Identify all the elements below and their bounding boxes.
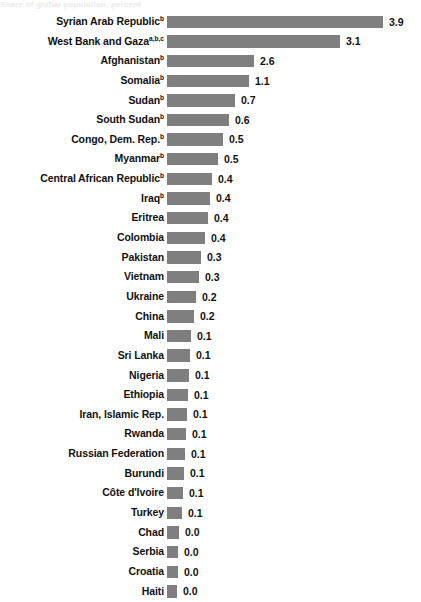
- footnote-marker: b: [160, 132, 164, 139]
- bar-and-value: 0.0: [167, 526, 200, 538]
- bar-row: Central African Republicb0.4: [0, 169, 421, 189]
- category-label: Sudanb: [128, 91, 164, 111]
- bar-chart: Share of global population, percent Syri…: [0, 0, 421, 602]
- value-label: 0.2: [200, 310, 215, 322]
- bar-row: Eritrea0.4: [0, 208, 421, 228]
- category-label: Colombia: [117, 228, 164, 248]
- bar-and-value: 3.9: [167, 16, 404, 28]
- value-label: 3.1: [346, 35, 361, 47]
- bar: [167, 251, 201, 263]
- category-label: Côte d'Ivoire: [102, 483, 164, 503]
- bar: [167, 55, 254, 67]
- bar: [167, 16, 383, 28]
- category-label: Sri Lanka: [118, 346, 164, 366]
- bar-row: Rwanda0.1: [0, 424, 421, 444]
- bar-and-value: 0.3: [167, 251, 222, 263]
- category-label: South Sudanb: [96, 110, 164, 130]
- value-label: 0.4: [216, 192, 231, 204]
- category-label: China: [135, 307, 164, 327]
- bar: [167, 487, 183, 499]
- value-label: 0.6: [235, 114, 250, 126]
- value-label: 0.1: [191, 448, 206, 460]
- bar: [167, 566, 178, 578]
- bar: [167, 467, 184, 479]
- bar: [167, 369, 189, 381]
- value-label: 0.3: [207, 251, 222, 263]
- bar-row: Sri Lanka0.1: [0, 346, 421, 366]
- category-label: Rwanda: [124, 424, 164, 444]
- category-label: Burundi: [124, 464, 164, 484]
- bar-and-value: 0.5: [167, 133, 244, 145]
- value-label: 0.5: [224, 153, 239, 165]
- bar: [167, 330, 191, 342]
- bar-row: Congo, Dem. Rep.b0.5: [0, 130, 421, 150]
- bar-and-value: 0.4: [167, 232, 226, 244]
- value-label: 0.1: [194, 389, 209, 401]
- footnote-marker: b: [160, 152, 164, 159]
- bar-and-value: 0.1: [167, 428, 207, 440]
- value-label: 0.0: [184, 546, 199, 558]
- bar-row: Iran, Islamic Rep.0.1: [0, 405, 421, 425]
- bar: [167, 75, 249, 87]
- bar-and-value: 0.1: [167, 389, 209, 401]
- bar-row: Nigeria0.1: [0, 366, 421, 386]
- bar-and-value: 0.4: [167, 192, 231, 204]
- bar-and-value: 0.1: [167, 487, 204, 499]
- bar-and-value: 0.1: [167, 408, 208, 420]
- bar-row: Côte d'Ivoire0.1: [0, 483, 421, 503]
- bar: [167, 389, 188, 401]
- value-label: 0.4: [214, 212, 229, 224]
- bar-row: Iraqb0.4: [0, 189, 421, 209]
- value-label: 0.1: [190, 467, 205, 479]
- footnote-marker: b: [160, 172, 164, 179]
- bar-row: South Sudanb0.6: [0, 110, 421, 130]
- value-label: 0.1: [197, 330, 212, 342]
- bar: [167, 291, 196, 303]
- bar-and-value: 0.4: [167, 173, 233, 185]
- footnote-marker: b: [160, 54, 164, 61]
- bar-and-value: 1.1: [167, 75, 270, 87]
- value-label: 1.1: [255, 75, 270, 87]
- bar-and-value: 3.1: [167, 35, 361, 47]
- bar-and-value: 0.1: [167, 330, 212, 342]
- value-label: 0.4: [211, 232, 226, 244]
- category-label: Ukraine: [126, 287, 164, 307]
- bar: [167, 546, 178, 558]
- bar-row: Serbia0.0: [0, 542, 421, 562]
- bar-and-value: 0.1: [167, 507, 203, 519]
- bar-and-value: 0.1: [167, 448, 206, 460]
- bar: [167, 173, 212, 185]
- bar-row: Pakistan0.3: [0, 248, 421, 268]
- bar: [167, 232, 205, 244]
- bar-row: West Bank and Gazaa,b,c3.1: [0, 32, 421, 52]
- footnote-marker: a,b,c: [149, 34, 164, 41]
- bar-and-value: 0.0: [167, 566, 199, 578]
- bar: [167, 349, 190, 361]
- footnote-marker: b: [160, 191, 164, 198]
- bar-row: Sudanb0.7: [0, 91, 421, 111]
- category-label: West Bank and Gazaa,b,c: [48, 32, 164, 52]
- bar: [167, 428, 186, 440]
- bar-row: China0.2: [0, 307, 421, 327]
- category-label: Eritrea: [131, 208, 164, 228]
- bar: [167, 271, 199, 283]
- bar-row: Russian Federation0.1: [0, 444, 421, 464]
- bar-row: Somaliab1.1: [0, 71, 421, 91]
- bar: [167, 448, 185, 460]
- category-label: Syrian Arab Republicb: [56, 12, 164, 32]
- bar-and-value: 0.2: [167, 310, 215, 322]
- bar-row: Myanmarb0.5: [0, 149, 421, 169]
- footnote-marker: b: [160, 113, 164, 120]
- category-label: Pakistan: [122, 248, 164, 268]
- bar: [167, 192, 210, 204]
- value-label: 0.1: [188, 507, 203, 519]
- bar: [167, 94, 235, 106]
- category-label: Somaliab: [120, 71, 164, 91]
- value-label: 0.2: [202, 291, 217, 303]
- bar: [167, 35, 340, 47]
- bar-row: Ukraine0.2: [0, 287, 421, 307]
- category-label: Serbia: [133, 542, 165, 562]
- bar-and-value: 0.3: [167, 271, 220, 283]
- bar-row: Syrian Arab Republicb3.9: [0, 12, 421, 32]
- bar-row: Afghanistanb2.6: [0, 51, 421, 71]
